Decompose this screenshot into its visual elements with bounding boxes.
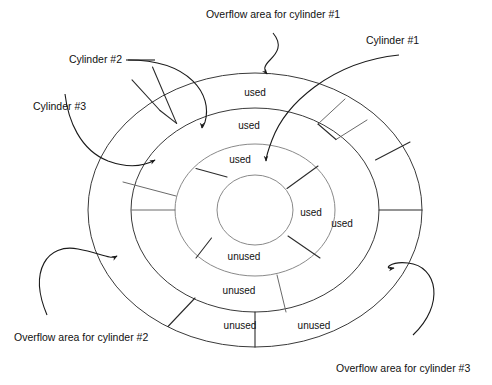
segment-label: used [331, 218, 353, 229]
segment-label: unused [228, 251, 261, 262]
segment-label: unused [298, 320, 331, 331]
cylinder-1-arrow [266, 55, 399, 161]
overflow-1-arrow [265, 33, 279, 74]
figure-canvas: used unused unused used used unused used… [0, 0, 492, 385]
overflow-2-arrow [40, 248, 117, 315]
cylinder-2-label: Cylinder #2 [69, 53, 122, 65]
cylinder-1-label: Cylinder #1 [366, 34, 419, 46]
segment-labels: used unused unused used used unused used… [223, 87, 353, 331]
segment-label: unused [224, 320, 257, 331]
cylinder-3-inner-hole [217, 175, 293, 245]
overflow-1-label: Overflow area for cylinder #1 [206, 8, 340, 20]
segment-label: used [244, 87, 266, 98]
overflow-3-arrow [388, 263, 434, 335]
segment-label: used [229, 154, 251, 165]
cylinder-2-arrow [128, 60, 207, 128]
ring-diagram-svg: used unused unused used used unused used… [0, 0, 492, 385]
segment-label: used [238, 120, 260, 131]
overflow-2-label: Overflow area for cylinder #2 [14, 331, 148, 343]
cylinder-3-label: Cylinder #3 [33, 100, 86, 112]
segment-label: unused [223, 285, 256, 296]
overflow-3-label: Overflow area for cylinder #3 [336, 362, 470, 374]
segment-label: used [300, 207, 322, 218]
